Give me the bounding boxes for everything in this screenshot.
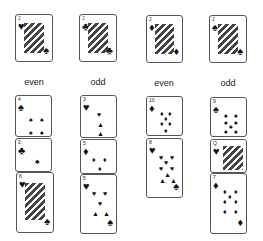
card-2-clubs[interactable]: 2 ♣ ♣	[15, 138, 52, 172]
column-label-2: odd	[73, 77, 123, 87]
card-7-diamonds[interactable]: 7 ♦ ♦ ♦ ♦ ♦ ♦ ♦ ♦ ♦	[210, 173, 247, 234]
heart-suit-icon: ♥	[149, 145, 156, 156]
queen-face-icon	[223, 146, 243, 170]
spade-suit-icon: ♠	[237, 46, 243, 57]
jack-face-icon	[218, 24, 238, 54]
jack-face-icon	[24, 23, 44, 53]
diamond-pip-icon: ♦	[168, 110, 172, 117]
club-pip-icon: ♣	[35, 158, 40, 165]
spade-pip-icon: ♠	[224, 128, 228, 135]
diamond-pip-icon: ♦	[234, 188, 238, 195]
card-9-spades[interactable]: 9 ♠ ♠ ♠ ♠ ♠ ♠ ♠ ♠	[210, 97, 247, 137]
heart-pip-icon: ♥	[159, 165, 163, 172]
diamond-pip-icon: ♦	[223, 188, 227, 195]
spade-pip-icon: ♠	[229, 123, 233, 130]
diamond-pip-icon: ♦	[228, 193, 232, 200]
spade-suit-icon: ♠	[107, 217, 113, 228]
king-face-icon	[25, 183, 45, 220]
spade-pip-icon: ♠	[29, 116, 33, 123]
jack-face-icon	[155, 24, 174, 54]
diamond-pip-icon: ♦	[168, 120, 172, 127]
heart-pip-icon: ♥	[97, 111, 101, 118]
spade-pip-icon: ♠	[40, 116, 44, 123]
diamond-suit-icon: ♦	[213, 180, 219, 191]
spade-pip-icon: ♠	[224, 119, 228, 126]
diamond-pip-icon: ♦	[234, 198, 238, 205]
diamond-pip-icon: ♦	[164, 127, 168, 134]
diamond-suit-icon: ♦	[237, 217, 243, 228]
heart-suit-icon: ♥	[83, 102, 90, 113]
card-8-hearts[interactable]: 8 ♥ ♥ ♥ ♥ ♥ ♥ ▲ ▲ ▲ ♠	[146, 138, 183, 198]
club-suit-icon: ♣	[106, 45, 113, 56]
heart-pip-icon: ♥	[164, 159, 168, 166]
card-3-hearts[interactable]: 3 ♥ ♥ ▲ ▲	[80, 95, 117, 138]
spade-pip-icon: ♠	[234, 112, 238, 119]
card-queen-hearts[interactable]: Q ♥	[210, 139, 247, 173]
club-suit-icon: ♣	[18, 145, 25, 156]
header-card-jack-diamonds[interactable]: J ♦ ♦	[146, 15, 183, 63]
spade-pip-icon: ♠	[234, 119, 238, 126]
spade-pip-icon: ♠	[234, 128, 238, 135]
heart-pip-icon: ♥	[159, 154, 163, 161]
diamond-pip-icon: ♦	[234, 208, 238, 215]
card-4-spades[interactable]: 4 ♠ ♠ ♠ ♠ ♠	[15, 95, 52, 137]
spade-suit-icon: ♠	[212, 22, 218, 33]
header-card-jack-hearts[interactable]: J ♥ ♠	[15, 14, 53, 62]
heart-suit-icon: ♥	[213, 146, 220, 157]
card-10-diamonds[interactable]: 10 ♦ ♦ ♦ ♦ ♦ ♦ ♦	[146, 96, 183, 136]
heart-pip-icon: ♥	[92, 190, 96, 197]
diamond-pip-icon: ♦	[92, 156, 96, 163]
heart-pip-icon: ▲	[92, 210, 99, 217]
spade-pip-icon: ♠	[40, 129, 44, 136]
spade-suit-icon: ♠	[173, 181, 179, 192]
card-king-hearts[interactable]: K ♥ ♠	[16, 172, 54, 233]
heart-pip-icon: ♥	[103, 190, 107, 197]
diamond-pip-icon: ♦	[223, 208, 227, 215]
diamond-suit-icon: ♦	[149, 103, 155, 114]
diamond-pip-icon: ♦	[223, 198, 227, 205]
diamond-suit-icon: ♦	[173, 46, 179, 57]
spade-suit-icon: ♠	[44, 216, 50, 227]
diamond-pip-icon: ♦	[160, 120, 164, 127]
heart-pip-icon: ▲	[97, 130, 104, 137]
header-card-jack-spades[interactable]: J ♠ ♠	[209, 15, 247, 63]
spade-suit-icon: ♠	[18, 102, 24, 113]
heart-pip-icon: ▲	[159, 177, 166, 184]
diamond-pip-icon: ♦	[103, 156, 107, 163]
column-label-3: even	[139, 78, 189, 88]
diamond-pip-icon: ♦	[98, 165, 102, 172]
heart-suit-icon: ♥	[83, 181, 90, 192]
column-label-4: odd	[203, 78, 253, 88]
column-label-1: even	[9, 77, 59, 87]
card-5-diamonds[interactable]: 5 ♦ ♦ ♦ ♦	[80, 139, 117, 174]
spade-pip-icon: ♠	[224, 112, 228, 119]
header-card-jack-clubs[interactable]: J ♣ ♣	[79, 14, 117, 62]
diamond-suit-icon: ♦	[149, 22, 155, 33]
spade-pip-icon: ♠	[29, 129, 33, 136]
diamond-suit-icon: ♦	[83, 146, 89, 157]
heart-pip-icon: ♥	[98, 200, 102, 207]
heart-pip-icon: ▲	[97, 121, 104, 128]
heart-pip-icon: ♥	[170, 154, 174, 161]
spade-suit-icon: ♠	[213, 104, 219, 115]
card-5-hearts[interactable]: 5 ♥ ♥ ♥ ♥ ▲ ▲ ♠	[80, 174, 117, 234]
spade-suit-icon: ♠	[43, 45, 49, 56]
